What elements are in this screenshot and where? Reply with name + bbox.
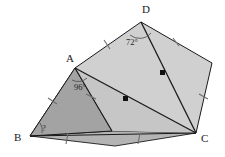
vertex-label-c: C bbox=[201, 132, 208, 144]
geometry-figure: A B C D 72° 96° ? bbox=[0, 0, 225, 157]
midpoint-dot-dc bbox=[160, 70, 165, 75]
vertex-label-a: A bbox=[66, 52, 74, 64]
angle-label-b: ? bbox=[42, 123, 46, 133]
diagram-canvas: A B C D 72° 96° ? bbox=[0, 0, 225, 157]
angle-label-a: 96° bbox=[74, 82, 86, 92]
vertex-label-b: B bbox=[14, 131, 21, 143]
midpoint-dot-ac bbox=[123, 96, 128, 101]
vertex-label-d: D bbox=[142, 3, 150, 15]
angle-label-d: 72° bbox=[126, 37, 138, 47]
